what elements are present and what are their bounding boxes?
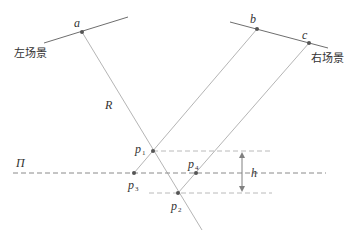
label-p1: p1 [135, 143, 146, 157]
point-p2 [176, 191, 180, 195]
label-h: h [251, 167, 257, 179]
label-b: b [250, 13, 256, 25]
point-a [80, 30, 84, 34]
right-scene-label: 右场景 [311, 53, 344, 64]
label-p4: p4 [188, 158, 199, 172]
point-c [307, 41, 311, 45]
label-R: R [105, 99, 112, 111]
point-p3 [132, 171, 136, 175]
label-c: c [302, 29, 307, 41]
label-p2: p2 [171, 200, 182, 214]
label-pi: Π [16, 157, 25, 169]
point-p1 [151, 149, 155, 153]
left-scene-label: 左场景 [14, 48, 47, 59]
label-p3: p3 [128, 179, 139, 193]
ray-R [82, 32, 202, 230]
point-b [255, 27, 259, 31]
h-arrow [239, 152, 245, 192]
label-a: a [74, 17, 80, 29]
